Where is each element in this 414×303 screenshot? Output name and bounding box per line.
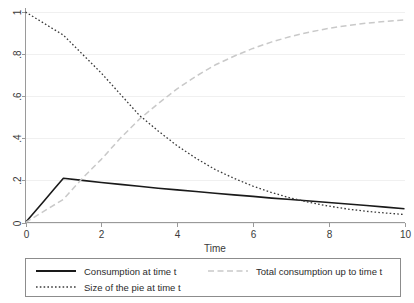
- y-tick-label-0: 0: [12, 220, 23, 226]
- x-tick-label-3: 6: [251, 229, 257, 240]
- x-axis-title: Time: [204, 243, 226, 254]
- y-tick-label-1: .2: [12, 176, 23, 185]
- legend-label-2[interactable]: Size of the pie at time t: [84, 282, 181, 293]
- chart-background: [0, 0, 414, 303]
- y-tick-label-3: .6: [12, 92, 23, 101]
- x-tick-label-1: 2: [99, 229, 105, 240]
- chart-container: 0.2.4.6.81 0246810 Time Consumption at t…: [0, 0, 414, 303]
- chart-legend: Consumption at time tTotal consumption u…: [26, 259, 401, 297]
- legend-label-0[interactable]: Consumption at time t: [84, 266, 177, 277]
- y-tick-label-2: .4: [12, 134, 23, 143]
- y-tick-label-4: .8: [12, 50, 23, 59]
- legend-box: [26, 259, 401, 297]
- x-tick-label-2: 4: [175, 229, 181, 240]
- x-tick-label-5: 10: [400, 229, 412, 240]
- legend-label-1[interactable]: Total consumption up to time t: [256, 266, 383, 277]
- x-tick-label-4: 8: [327, 229, 333, 240]
- line-chart: 0.2.4.6.81 0246810 Time Consumption at t…: [0, 0, 414, 303]
- y-tick-label-5: 1: [12, 9, 23, 15]
- x-tick-label-0: 0: [24, 229, 30, 240]
